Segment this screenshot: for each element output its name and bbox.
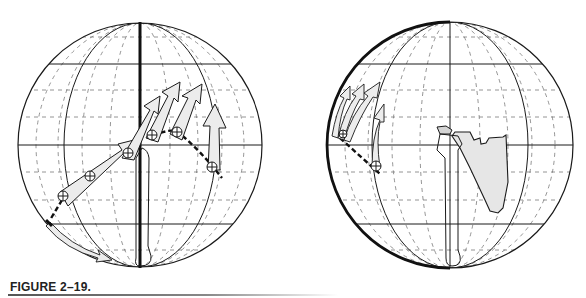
caption-rule xyxy=(8,294,338,296)
right-globe xyxy=(327,22,573,268)
figure-caption: FIGURE 2–19. xyxy=(10,280,91,294)
marker-2 xyxy=(85,171,95,181)
marker-6 xyxy=(207,162,217,172)
figure-canvas xyxy=(0,0,586,298)
marker-1 xyxy=(58,191,68,201)
elevation-arrows xyxy=(60,82,226,206)
humerus-outline xyxy=(136,148,152,266)
marker-1 xyxy=(339,130,347,138)
left-globe xyxy=(18,22,262,268)
sweep-arrow xyxy=(46,222,112,262)
marker-2 xyxy=(371,161,381,171)
marker-3 xyxy=(123,148,133,158)
scapula-outline xyxy=(452,132,508,213)
marker-5 xyxy=(172,127,182,137)
marker-4 xyxy=(147,130,157,140)
